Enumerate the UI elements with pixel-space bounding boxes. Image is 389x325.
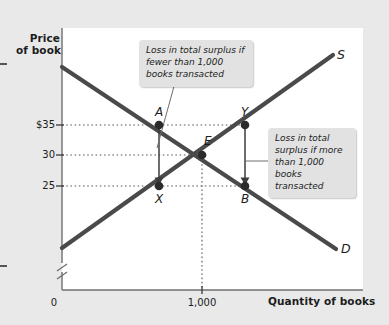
axis-ticks	[56, 125, 202, 294]
reference-lines	[62, 125, 251, 290]
callout-fewer-than-1000: Loss in total surplus if fewer than 1,00…	[139, 40, 253, 87]
demand-curve-label: D	[341, 242, 351, 257]
y-axis-title: Price of book	[16, 32, 60, 56]
point-label-e: E	[204, 135, 212, 149]
x-tick-label-0: 0	[44, 297, 64, 309]
supply-curve-label: S	[337, 48, 345, 63]
point-B	[241, 182, 250, 191]
x-axis-title: Quantity of books	[268, 295, 375, 307]
point-E	[198, 151, 207, 160]
y-tick-label-30: 30	[15, 149, 55, 161]
supply-demand-figure: Price of book Quantity of books $35 30 2…	[0, 0, 389, 325]
y-tick-label-25: 25	[15, 180, 55, 192]
point-A	[155, 121, 164, 130]
point-label-b: B	[241, 193, 249, 207]
y-tick-label-35: $35	[15, 119, 55, 131]
point-X	[155, 182, 164, 191]
point-label-a: A	[155, 106, 163, 120]
x-tick-label-1000: 1,000	[182, 297, 222, 309]
point-Y	[241, 121, 250, 130]
point-label-x: X	[155, 193, 163, 207]
point-label-y: Y	[241, 106, 248, 120]
callout-more-than-1000: Loss in total surplus if more than 1,000…	[268, 128, 356, 198]
